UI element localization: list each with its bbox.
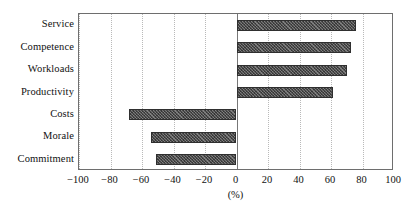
x-axis-title: (%) [228,189,244,201]
bar [237,42,352,53]
x-tick-label: −80 [101,174,117,186]
plot-area [78,13,393,170]
gridline [363,14,364,169]
x-tick-label: 100 [385,174,401,186]
bar [156,154,236,165]
x-tick-label: 80 [356,174,367,186]
bar [129,109,236,120]
gridline [205,14,206,169]
x-tick-label: 0 [233,174,238,186]
bar [151,132,236,143]
bar [237,87,333,98]
x-tick-label: −20 [196,174,212,186]
x-tick-label: −60 [133,174,149,186]
gridline [174,14,175,169]
gridline [111,14,112,169]
category-label: Service [42,18,74,29]
category-label: Costs [50,108,74,119]
category-label: Competence [21,41,74,52]
x-tick-label: 40 [293,174,304,186]
x-tick-label: −40 [164,174,180,186]
x-tick-label: −100 [67,174,89,186]
bar [237,20,357,31]
category-label: Morale [43,130,74,141]
gridline [79,14,80,169]
category-label: Workloads [28,63,74,74]
category-label: Productivity [21,86,74,97]
bar [237,65,347,76]
x-tick-label: 20 [262,174,273,186]
category-label: Commitment [18,153,74,164]
gridline [142,14,143,169]
diverging-bar-chart: ServiceCompetenceWorkloadsProductivityCo… [0,0,420,213]
x-tick-label: 60 [325,174,336,186]
